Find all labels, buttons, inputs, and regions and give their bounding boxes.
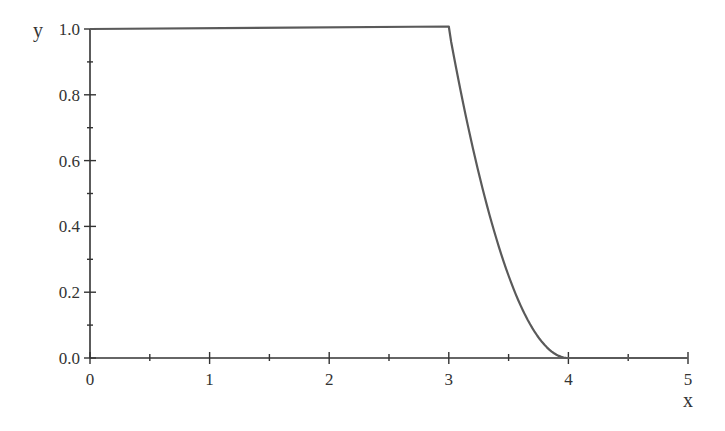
x-tick-label: 0 (86, 370, 95, 389)
axes (90, 29, 688, 358)
y-tick-label: 0.6 (59, 152, 80, 171)
data-line (90, 27, 688, 359)
tick-labels: 0123450.00.20.40.60.81.0 (59, 20, 693, 389)
x-axis-label: x (683, 389, 693, 411)
y-tick-label: 0.4 (59, 217, 81, 236)
x-tick-label: 5 (684, 370, 693, 389)
y-tick-label: 1.0 (59, 20, 80, 39)
y-axis-label: y (33, 19, 43, 42)
y-tick-label: 0.0 (59, 349, 80, 368)
x-tick-label: 4 (564, 370, 573, 389)
line-chart: 0123450.00.20.40.60.81.0 x y (0, 0, 725, 431)
x-tick-label: 3 (445, 370, 454, 389)
y-tick-label: 0.8 (59, 86, 80, 105)
axis-ticks (84, 29, 688, 364)
x-tick-label: 2 (325, 370, 334, 389)
x-tick-label: 1 (205, 370, 214, 389)
y-tick-label: 0.2 (59, 283, 80, 302)
